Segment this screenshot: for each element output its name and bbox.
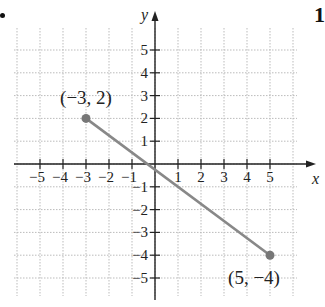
endpoint-marker xyxy=(266,251,275,260)
y-axis-arrow-icon xyxy=(152,11,159,21)
y-tick-label: 4 xyxy=(141,65,149,81)
point-label-end: (5, −4) xyxy=(228,267,280,289)
x-tick-label: 2 xyxy=(197,169,205,185)
y-tick-label: −1 xyxy=(132,179,148,195)
x-tick-label: 1 xyxy=(174,169,182,185)
x-axis-label: x xyxy=(311,170,319,187)
x-tick-label: 5 xyxy=(266,169,274,185)
x-tick-label: −5 xyxy=(29,169,45,185)
y-tick-label: 1 xyxy=(141,133,149,149)
y-tick-label: −2 xyxy=(132,202,148,218)
x-axis-arrow-icon xyxy=(306,161,316,168)
y-tick-label: −4 xyxy=(132,247,148,263)
y-tick-label: 5 xyxy=(141,42,149,58)
endpoint-marker xyxy=(82,114,91,123)
y-axis-label: y xyxy=(139,6,149,24)
annotations: xy(−3, 2)(5, −4) xyxy=(60,6,319,289)
x-tick-label: −4 xyxy=(52,169,68,185)
x-tick-label: −3 xyxy=(75,169,91,185)
y-tick-label: −3 xyxy=(132,224,148,240)
x-tick-label: 3 xyxy=(220,169,228,185)
y-tick-label: 3 xyxy=(141,88,149,104)
x-tick-label: 4 xyxy=(243,169,251,185)
point-label-start: (−3, 2) xyxy=(60,87,112,109)
y-tick-label: 2 xyxy=(141,110,149,126)
x-tick-label: −2 xyxy=(98,169,114,185)
y-tick-label: −5 xyxy=(132,270,148,286)
